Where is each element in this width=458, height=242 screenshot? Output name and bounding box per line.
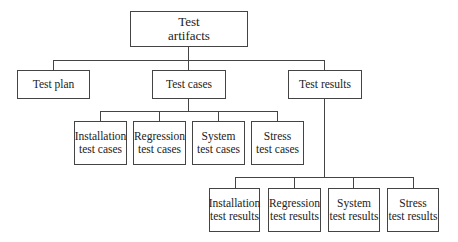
connector-tc-2 [159, 111, 160, 121]
node-label-line1: Stress [264, 130, 291, 142]
node-label-line1: System [337, 197, 371, 209]
connector-tr-3 [353, 177, 354, 188]
node-label: Test results [299, 78, 351, 91]
node-label-line1: Stress [399, 197, 426, 209]
node-stress-test-cases: Stresstest cases [251, 121, 304, 165]
node-label-line2: test cases [79, 143, 122, 155]
node-regression-test-cases: Regressiontest cases [133, 121, 186, 165]
node-label-line2: artifacts [168, 28, 210, 43]
node-label-line2: test results [270, 210, 319, 222]
node-label-line2: test cases [256, 143, 299, 155]
node-label-line2: test cases [138, 143, 181, 155]
node-label-line2: test results [389, 210, 438, 222]
connector-tc-1 [100, 111, 101, 121]
node-label-line1: Regression [134, 130, 185, 142]
node-label-line2: test cases [197, 143, 240, 155]
connector-test-cases-down [188, 98, 189, 111]
node-stress-test-results: Stresstest results [387, 188, 439, 232]
connector-tr-4 [413, 177, 414, 188]
connector-level1-bar [53, 60, 325, 61]
node-label: Test plan [33, 78, 75, 91]
connector-test-results-down [324, 98, 325, 177]
connector-test-results-bar [235, 177, 414, 178]
node-label-line2: test results [210, 210, 259, 222]
node-system-test-cases: Systemtest cases [192, 121, 245, 165]
node-label-line1: Installation [75, 130, 127, 142]
node-label-line1: Installation [209, 197, 261, 209]
node-label: Test cases [166, 78, 212, 91]
node-test-results: Test results [288, 70, 362, 99]
node-regression-test-results: Regressiontest results [268, 188, 321, 232]
node-test-cases: Test cases [152, 70, 226, 99]
connector-tc-4 [277, 111, 278, 121]
node-label-line1: Regression [269, 197, 320, 209]
connector-root-down [188, 46, 189, 60]
node-label-line1: System [202, 130, 236, 142]
node-installation-test-results: Installationtest results [209, 188, 260, 232]
connector-tc-3 [218, 111, 219, 121]
connector-to-test-plan [53, 60, 54, 70]
node-installation-test-cases: Installationtest cases [74, 121, 127, 165]
connector-to-test-results [324, 60, 325, 70]
node-label-line2: test results [330, 210, 379, 222]
connector-tr-1 [235, 177, 236, 188]
node-system-test-results: Systemtest results [328, 188, 380, 232]
node-test-artifacts: Testartifacts [130, 11, 248, 47]
node-test-plan: Test plan [17, 70, 90, 99]
connector-tr-2 [294, 177, 295, 188]
connector-to-test-cases [188, 60, 189, 70]
connector-test-cases-bar [100, 111, 278, 112]
node-label-line1: Test [178, 14, 199, 29]
